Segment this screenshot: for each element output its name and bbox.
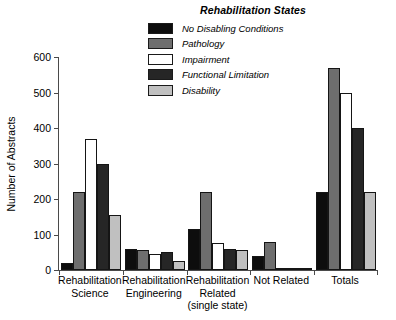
y-axis-tick-label: 200 <box>33 194 51 205</box>
bar <box>109 215 121 270</box>
bar-chart: Rehabilitation States No Disabling Condi… <box>0 0 396 320</box>
y-axis-tick-label: 500 <box>33 87 51 98</box>
bar <box>188 229 200 270</box>
legend-swatch-icon <box>148 38 173 49</box>
x-axis-label-line: Rehabilitation <box>122 274 186 287</box>
bar <box>224 249 236 270</box>
x-axis-labels: RehabilitationScienceRehabilitationEngin… <box>58 274 377 312</box>
bar <box>300 268 312 270</box>
x-axis-label-line: (single state) <box>186 299 250 312</box>
bar-group <box>123 57 187 270</box>
x-axis-label: RehabilitationEngineering <box>122 274 186 312</box>
x-axis-label-line: Related <box>186 287 250 300</box>
y-axis-tick-label: 100 <box>33 229 51 240</box>
bar <box>316 192 328 270</box>
x-axis-label-line: Totals <box>313 274 377 287</box>
legend-swatch-icon <box>148 23 173 34</box>
bar <box>61 263 73 270</box>
bar <box>276 268 288 270</box>
x-axis-label: Totals <box>313 274 377 312</box>
bar <box>173 261 185 270</box>
x-axis-label-line: Not Related <box>249 274 313 287</box>
bar-group <box>187 57 251 270</box>
bar <box>288 268 300 270</box>
y-axis-tick-label: 600 <box>33 52 51 63</box>
bar <box>125 249 137 270</box>
x-axis-tick <box>377 270 378 275</box>
x-axis-label-line: Rehabilitation <box>58 274 122 287</box>
bar-group <box>250 57 314 270</box>
x-axis-label: RehabilitationScience <box>58 274 122 312</box>
y-axis-tick-label: 400 <box>33 123 51 134</box>
y-axis-title: Number of Abstracts <box>4 57 18 270</box>
bar <box>236 250 248 270</box>
x-axis-label: RehabilitationRelated(single state) <box>186 274 250 312</box>
x-axis-label-line: Engineering <box>122 287 186 300</box>
bar <box>364 192 376 270</box>
bar <box>85 139 97 270</box>
legend-item: Pathology <box>148 37 376 51</box>
bar-group <box>314 57 378 270</box>
bar <box>264 242 276 270</box>
legend-item-label: Pathology <box>182 38 224 49</box>
bar <box>137 250 149 270</box>
bar <box>97 164 109 271</box>
bar-group <box>59 57 123 270</box>
x-axis-label: Not Related <box>249 274 313 312</box>
bar <box>352 128 364 270</box>
x-axis-label-line: Science <box>58 287 122 300</box>
y-axis-title-text: Number of Abstracts <box>5 116 17 211</box>
bar <box>252 256 264 270</box>
y-axis-tick-label: 0 <box>45 265 51 276</box>
legend-item: No Disabling Conditions <box>148 21 376 35</box>
bar <box>161 252 173 270</box>
bar <box>328 68 340 270</box>
plot-area: 0100200300400500600 <box>58 57 378 271</box>
y-axis-tick-label: 300 <box>33 158 51 169</box>
bar <box>340 93 352 271</box>
bar-groups <box>59 57 378 270</box>
bar <box>212 243 224 270</box>
legend-title: Rehabilitation States <box>126 4 376 16</box>
legend-item-label: No Disabling Conditions <box>182 23 283 34</box>
bar <box>73 192 85 270</box>
bar <box>149 254 161 270</box>
x-axis-label-line: Rehabilitation <box>186 274 250 287</box>
bar <box>200 192 212 270</box>
